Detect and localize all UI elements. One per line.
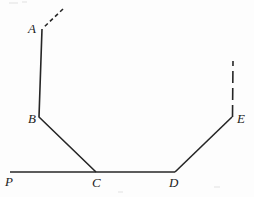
vertex-label-B: B <box>28 112 36 125</box>
segment-D-E <box>175 117 232 172</box>
scan-speck <box>22 1 27 3</box>
geometry-figure: A B P C D E <box>0 0 254 197</box>
polyline-A-B-C <box>39 29 96 172</box>
ray-from-E-dashed-line <box>233 61 234 117</box>
figure-canvas <box>0 0 254 197</box>
vertex-label-P: P <box>5 175 13 188</box>
vertex-label-D: D <box>169 176 178 189</box>
scan-speck <box>9 2 18 4</box>
vertex-label-E: E <box>237 112 245 125</box>
vertex-label-C: C <box>92 176 101 189</box>
ray-from-A-dashed-line <box>43 9 63 28</box>
scan-speck <box>118 191 123 193</box>
vertex-label-A: A <box>28 22 36 35</box>
scan-speck <box>214 186 220 188</box>
